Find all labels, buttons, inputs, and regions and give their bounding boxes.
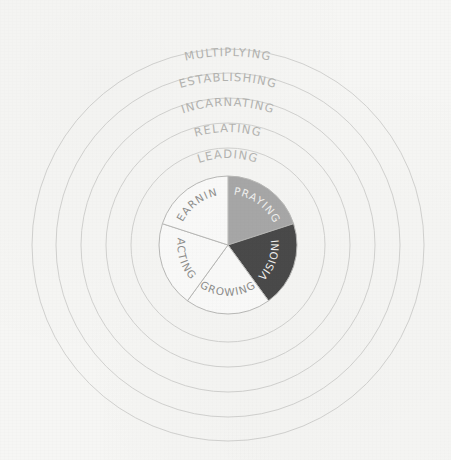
ring-label-relating: RELATING bbox=[193, 121, 264, 140]
ring-label-establishing: ESTABLISHING bbox=[177, 70, 279, 91]
ring-labels-group: LEADINGRELATINGINCARNATINGESTABLISHINGMU… bbox=[177, 45, 279, 166]
concentric-wheel-diagram: PRAYINGENVISIONINGGROWINGACTINGLEARNING … bbox=[0, 0, 451, 460]
wheel-svg: PRAYINGENVISIONINGGROWINGACTINGLEARNING … bbox=[0, 0, 451, 460]
ring-label-incarnating: INCARNATING bbox=[179, 95, 276, 116]
ring-label-leading: LEADING bbox=[196, 147, 261, 166]
ring-label-multiplying: MULTIPLYING bbox=[183, 45, 273, 64]
